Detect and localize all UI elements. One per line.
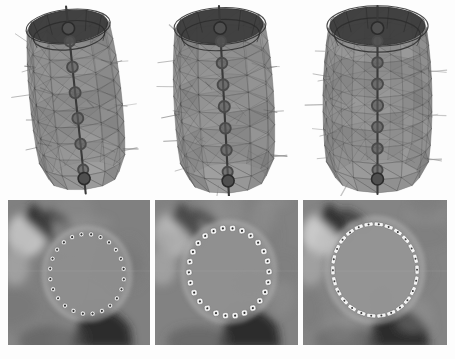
mesh-render-stage-2 (150, 0, 298, 196)
slice-render-stage-3 (303, 200, 447, 345)
mesh-render-stage-1 (2, 0, 150, 196)
slice-panel-stage-3 (303, 200, 447, 345)
mesh-panel-stage-2 (150, 0, 298, 196)
mesh-render-stage-3 (300, 0, 455, 196)
mesh-panel-stage-3 (300, 0, 455, 196)
figure-container (0, 0, 455, 359)
slice-render-stage-2 (155, 200, 298, 345)
slice-render-stage-1 (8, 200, 150, 345)
slice-panel-stage-1 (8, 200, 150, 345)
mesh-panel-stage-1 (2, 0, 150, 196)
slice-panel-stage-2 (155, 200, 298, 345)
